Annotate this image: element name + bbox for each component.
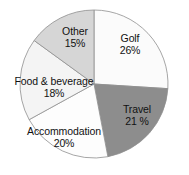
slice-label-other-name: Other [50, 26, 100, 38]
slice-label-other: Other 15% [50, 26, 100, 49]
slice-label-accommodation: Accommodation 20% [10, 126, 118, 149]
slice-label-travel-name: Travel [110, 104, 164, 116]
slice-label-accommodation-percent: 20% [10, 138, 118, 150]
slice-label-travel-percent: 21 % [110, 116, 164, 128]
slice-label-food-and-beverage-name: Food & beverage [2, 76, 106, 88]
slice-label-golf: Golf 26% [104, 33, 156, 56]
slice-label-golf-name: Golf [104, 33, 156, 45]
slice-label-golf-percent: 26% [104, 45, 156, 57]
slice-label-food-and-beverage: Food & beverage 18% [2, 76, 106, 99]
slice-label-food-and-beverage-percent: 18% [2, 88, 106, 100]
slice-label-other-percent: 15% [50, 38, 100, 50]
slice-label-accommodation-name: Accommodation [10, 126, 118, 138]
pie-chart: Golf 26% Travel 21 % Accommodation 20% F… [0, 0, 189, 175]
slice-label-travel: Travel 21 % [110, 104, 164, 127]
